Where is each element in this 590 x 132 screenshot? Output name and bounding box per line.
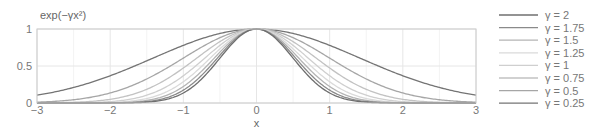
legend-item: γ = 2 xyxy=(499,9,569,21)
x-tick-label: 2 xyxy=(400,104,406,116)
legend-label: γ = 0.5 xyxy=(545,85,578,97)
legend-item: γ = 0.5 xyxy=(499,85,578,97)
x-tick-label: −3 xyxy=(31,104,44,116)
x-tick-label: 0 xyxy=(253,104,259,116)
legend-item: γ = 1.25 xyxy=(499,47,584,59)
legend-item: γ = 1.5 xyxy=(499,34,578,46)
legend-item: γ = 1 xyxy=(499,59,569,71)
legend: γ = 2γ = 1.75γ = 1.5γ = 1.25γ = 1γ = 0.7… xyxy=(499,9,584,109)
y-axis-ticks: 00.51 xyxy=(17,23,32,109)
y-tick-label: 0 xyxy=(26,97,32,109)
y-axis-label: exp(−γx²) xyxy=(40,9,86,21)
x-axis-label: x xyxy=(254,117,260,129)
grid-lines xyxy=(37,29,476,103)
legend-item: γ = 0.25 xyxy=(499,97,584,109)
x-axis-ticks: −3−2−10123 xyxy=(31,104,479,116)
legend-label: γ = 1 xyxy=(545,59,569,71)
legend-item: γ = 1.75 xyxy=(499,22,584,34)
gaussian-chart: −3−2−10123 00.51 exp(−γx²) x γ = 2γ = 1.… xyxy=(0,0,590,132)
legend-label: γ = 1.75 xyxy=(545,22,584,34)
legend-label: γ = 2 xyxy=(545,9,569,21)
x-tick-label: −1 xyxy=(177,104,190,116)
x-tick-label: 1 xyxy=(327,104,333,116)
legend-label: γ = 1.5 xyxy=(545,34,578,46)
legend-item: γ = 0.75 xyxy=(499,72,584,84)
y-tick-label: 1 xyxy=(26,23,32,35)
y-tick-label: 0.5 xyxy=(17,60,32,72)
x-tick-label: −2 xyxy=(104,104,117,116)
x-tick-label: 3 xyxy=(473,104,479,116)
legend-label: γ = 0.75 xyxy=(545,72,584,84)
legend-label: γ = 1.25 xyxy=(545,47,584,59)
legend-label: γ = 0.25 xyxy=(545,97,584,109)
